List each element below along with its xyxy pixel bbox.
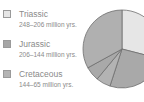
pie-chart [0,0,144,102]
